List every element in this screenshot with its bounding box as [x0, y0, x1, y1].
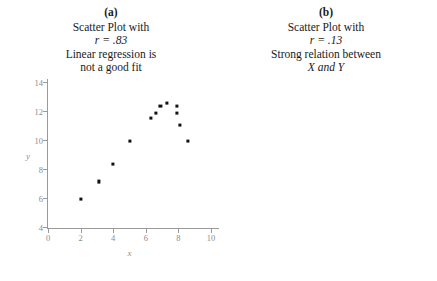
- panel-a-plot-area: x y 4681012140246810: [48, 83, 211, 228]
- panel-a-y-tick: [43, 82, 48, 83]
- panel-a-x-tick-label: 6: [144, 233, 148, 243]
- panel-a-data-point: [175, 112, 178, 115]
- panel-a-y-tick: [43, 169, 48, 170]
- panel-a-y-axis-title: y: [26, 151, 30, 161]
- panel-a-data-point: [165, 102, 168, 105]
- panel-a-caption-line-4: not a good fit: [0, 61, 222, 75]
- panel-a-data-point: [112, 163, 115, 166]
- panel-a-data-point: [159, 105, 162, 108]
- panel-a-y-tick: [43, 140, 48, 141]
- panel-a-x-tick-label: 0: [46, 233, 50, 243]
- panel-b-caption-line-2: r = .13: [215, 34, 437, 48]
- panel-a-data-point: [178, 123, 181, 126]
- panel-a-x-tick-label: 4: [111, 233, 115, 243]
- panel-a-y-tick-label: 6: [39, 194, 43, 204]
- panel-a-y-axis-line: [47, 79, 48, 228]
- panel-a-y-tick-label: 10: [35, 136, 44, 146]
- panel-a-data-point: [154, 112, 157, 115]
- panel-a-data-point: [175, 105, 178, 108]
- panel-a-x-tick-label: 10: [207, 233, 216, 243]
- panel-b-caption-line-4: X and Y: [215, 61, 437, 75]
- panel-a-caption-line-1: Scatter Plot with: [0, 21, 222, 35]
- panel-b-caption-line-1: Scatter Plot with: [215, 21, 437, 35]
- panel-a-x-tick-label: 8: [176, 233, 180, 243]
- panel-a-y-tick-label: 14: [35, 78, 44, 88]
- panel-b-caption-line-3: Strong relation between: [215, 48, 437, 62]
- panel-a-x-axis-line: [47, 228, 219, 229]
- panel-a-y-tick-label: 8: [39, 165, 43, 175]
- panel-a-letter: (a): [0, 6, 222, 20]
- panel-a-y-tick-label: 12: [35, 107, 44, 117]
- panel-a-x-tick-label: 2: [78, 233, 82, 243]
- panel-a: (a) Scatter Plot with r = .83 Linear reg…: [0, 0, 222, 281]
- panel-a-data-point: [97, 180, 100, 183]
- panel-a-y-tick-label: 4: [39, 223, 43, 233]
- panel-b-letter: (b): [215, 6, 437, 20]
- panel-a-data-point: [128, 139, 131, 142]
- scatter-plot-figure: (a) Scatter Plot with r = .83 Linear reg…: [0, 0, 437, 281]
- panel-b: (b) Scatter Plot with r = .13 Strong rel…: [215, 0, 437, 281]
- panel-a-y-tick: [43, 198, 48, 199]
- panel-a-data-point: [79, 197, 82, 200]
- panel-a-caption-line-2: r = .83: [0, 34, 222, 48]
- panel-a-data-point: [187, 139, 190, 142]
- panel-b-caption: (b) Scatter Plot with r = .13 Strong rel…: [215, 6, 437, 75]
- panel-a-caption-line-3: Linear regression is: [0, 48, 222, 62]
- panel-a-x-axis-title: x: [128, 248, 132, 258]
- panel-a-y-tick: [43, 111, 48, 112]
- panel-a-caption: (a) Scatter Plot with r = .83 Linear reg…: [0, 6, 222, 75]
- panel-a-data-point: [149, 116, 152, 119]
